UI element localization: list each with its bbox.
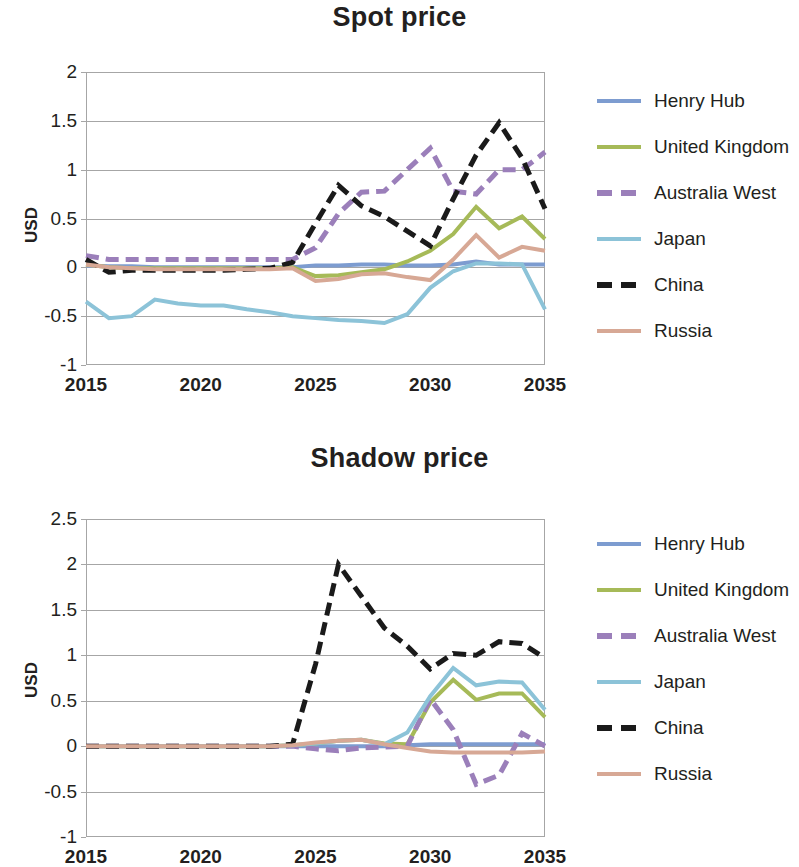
legend-label: Henry Hub xyxy=(654,90,745,112)
x-tick-label: 2025 xyxy=(294,374,336,396)
y-tick-label: 1.5 xyxy=(51,599,77,621)
y-tick-label: 2.5 xyxy=(51,508,77,530)
y-tick-label: 0 xyxy=(66,256,77,278)
legend-swatch-icon xyxy=(596,763,642,785)
legend-swatch-icon xyxy=(596,625,642,647)
legend-item-united-kingdom[interactable]: United Kingdom xyxy=(596,567,789,613)
y-tick-label: 1.5 xyxy=(51,110,77,132)
x-tick-label: 2035 xyxy=(524,374,566,396)
y-tick-mark xyxy=(81,365,86,366)
series-layer-shadow xyxy=(86,519,545,837)
legend-label: Australia West xyxy=(654,182,776,204)
x-tick-label: 2020 xyxy=(180,374,222,396)
x-tick-label: 2035 xyxy=(524,846,566,867)
series-line-china xyxy=(86,564,545,746)
y-axis-title-spot-text: USD xyxy=(22,207,42,243)
series-line-australia-west xyxy=(86,148,545,259)
y-tick-label: 0 xyxy=(66,735,77,757)
legend-item-henry-hub[interactable]: Henry Hub xyxy=(596,78,789,124)
legend-swatch-icon xyxy=(596,717,642,739)
y-tick-mark xyxy=(81,837,86,838)
legend-swatch-icon xyxy=(596,671,642,693)
legend-label: Australia West xyxy=(654,625,776,647)
legend-item-japan[interactable]: Japan xyxy=(596,216,789,262)
legend-swatch-icon xyxy=(596,90,642,112)
x-tick-label: 2020 xyxy=(180,846,222,867)
chart-panel-spot-price: Spot price USD 21.510.50-0.5-1 201520202… xyxy=(0,0,799,425)
legend-label: China xyxy=(654,717,704,739)
legend-item-united-kingdom[interactable]: United Kingdom xyxy=(596,124,789,170)
chart-title-shadow-price: Shadow price xyxy=(0,443,799,474)
legend-swatch-icon xyxy=(596,320,642,342)
legend-item-australia-west[interactable]: Australia West xyxy=(596,613,789,659)
y-tick-label: -0.5 xyxy=(44,781,77,803)
y-tick-label: -1 xyxy=(60,354,77,376)
series-line-united-kingdom xyxy=(86,680,545,746)
legend-item-russia[interactable]: Russia xyxy=(596,308,789,354)
x-tick-label: 2030 xyxy=(409,846,451,867)
y-tick-label: -0.5 xyxy=(44,305,77,327)
y-tick-label: 1 xyxy=(66,644,77,666)
legend-item-china[interactable]: China xyxy=(596,705,789,751)
y-axis-title-shadow: USD xyxy=(14,670,50,690)
legend-label: Japan xyxy=(654,228,706,250)
legend-shadow-price: Henry HubUnited KingdomAustralia WestJap… xyxy=(596,521,789,797)
legend-swatch-icon xyxy=(596,228,642,250)
legend-swatch-icon xyxy=(596,533,642,555)
legend-label: Russia xyxy=(654,763,712,785)
y-tick-label: 0.5 xyxy=(51,208,77,230)
legend-item-henry-hub[interactable]: Henry Hub xyxy=(596,521,789,567)
legend-item-australia-west[interactable]: Australia West xyxy=(596,170,789,216)
legend-label: Russia xyxy=(654,320,712,342)
series-line-japan xyxy=(86,668,545,746)
legend-item-russia[interactable]: Russia xyxy=(596,751,789,797)
legend-label: United Kingdom xyxy=(654,579,789,601)
y-tick-label: 1 xyxy=(66,159,77,181)
plot-area-spot-price: 21.510.50-0.5-1 20152020202520302035 xyxy=(86,72,545,365)
y-tick-label: 2 xyxy=(66,553,77,575)
legend-item-china[interactable]: China xyxy=(596,262,789,308)
x-tick-label: 2025 xyxy=(294,846,336,867)
legend-spot-price: Henry HubUnited KingdomAustralia WestJap… xyxy=(596,78,789,354)
chart-title-spot-price: Spot price xyxy=(0,2,799,33)
y-axis-title-spot: USD xyxy=(14,215,50,235)
x-tick-label: 2015 xyxy=(65,846,107,867)
legend-swatch-icon xyxy=(596,274,642,296)
y-tick-label: 2 xyxy=(66,61,77,83)
y-axis-title-shadow-text: USD xyxy=(22,662,42,698)
y-tick-label: -1 xyxy=(60,826,77,848)
legend-swatch-icon xyxy=(596,136,642,158)
plot-area-shadow-price: 2.521.510.50-0.5-1 20152020202520302035 xyxy=(86,519,545,837)
legend-swatch-icon xyxy=(596,579,642,601)
legend-item-japan[interactable]: Japan xyxy=(596,659,789,705)
x-tick-label: 2030 xyxy=(409,374,451,396)
chart-panel-shadow-price: Shadow price USD 2.521.510.50-0.5-1 2015… xyxy=(0,425,799,851)
legend-swatch-icon xyxy=(596,182,642,204)
legend-label: Japan xyxy=(654,671,706,693)
x-tick-label: 2015 xyxy=(65,374,107,396)
series-layer-spot xyxy=(86,72,545,365)
y-tick-label: 0.5 xyxy=(51,690,77,712)
legend-label: United Kingdom xyxy=(654,136,789,158)
legend-label: Henry Hub xyxy=(654,533,745,555)
legend-label: China xyxy=(654,274,704,296)
